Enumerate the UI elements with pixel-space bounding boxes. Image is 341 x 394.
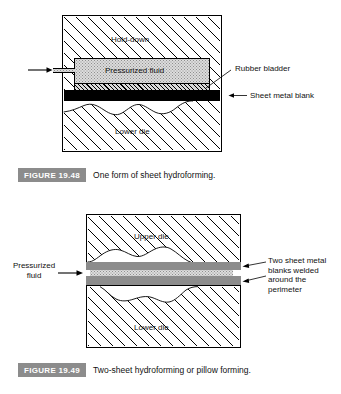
welded-blanks-line-3: around the (268, 275, 340, 285)
welded-blanks-line-4: perimeter (268, 285, 340, 295)
rubber-bladder-label: Rubber bladder (235, 64, 290, 74)
lower-die-label: Lower die (115, 127, 150, 137)
lower-die-label-2: Lower die (134, 323, 169, 333)
pressurized-fluid-label-2: Pressurized fluid (8, 261, 60, 280)
lower-die-body-2 (88, 287, 240, 347)
figure-19-49-caption-text: Two-sheet hydroforming or pillow forming… (93, 365, 251, 375)
figure-19-48-diagram: Hold-down Pressurized fluid Lower die Ru… (0, 0, 341, 165)
pressurized-fluid-line-2: fluid (8, 271, 60, 281)
sheet-metal-blank-band (64, 90, 221, 101)
figure-19-48-caption-text: One form of sheet hydroforming. (93, 170, 215, 180)
upper-sheet-blank (86, 262, 241, 270)
welded-blanks-line-2: blanks welded (268, 266, 340, 276)
hold-down-label: Hold-down (111, 35, 149, 45)
rubber-bladder-band (74, 83, 210, 91)
figure-19-49-diagram: Pressurized fluid Upper die Lower die Tw… (0, 200, 341, 360)
pressurized-fluid-label: Pressurized fluid (105, 66, 164, 76)
fluid-inlet-channel (53, 68, 75, 73)
pressurized-fluid-line-1: Pressurized (8, 261, 60, 271)
interior-pressurized-fluid (90, 270, 233, 276)
figure-19-49-caption: FIGURE 19.49 Two-sheet hydroforming or p… (18, 363, 251, 377)
figure-19-49-badge: FIGURE 19.49 (18, 363, 86, 377)
figure-page: Hold-down Pressurized fluid Lower die Ru… (0, 0, 341, 394)
upper-die-label: Upper die (134, 232, 169, 242)
sheet-metal-blank-label: Sheet metal blank (250, 91, 314, 101)
welded-blanks-label: Two sheet metal blanks welded around the… (268, 256, 340, 294)
figure-19-48-caption: FIGURE 19.48 One form of sheet hydroform… (18, 168, 215, 182)
welded-blanks-line-1: Two sheet metal (268, 256, 340, 266)
lower-die-body (64, 101, 221, 150)
figure-19-48-badge: FIGURE 19.48 (18, 168, 86, 182)
lower-sheet-blank (86, 276, 241, 285)
